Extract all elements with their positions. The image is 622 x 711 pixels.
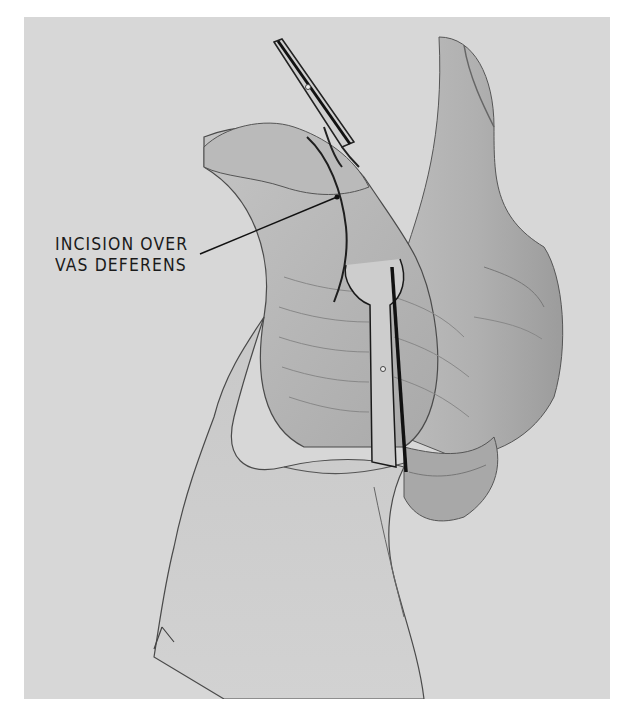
annotation-label: INCISION OVER VAS DEFERENS <box>55 234 188 276</box>
annotation-line-2: VAS DEFERENS <box>55 255 188 276</box>
illustration-frame: INCISION OVER VAS DEFERENS <box>24 17 610 699</box>
surgical-illustration <box>24 17 610 699</box>
leader-dot <box>335 195 340 200</box>
annotation-line-1: INCISION OVER <box>55 234 188 255</box>
